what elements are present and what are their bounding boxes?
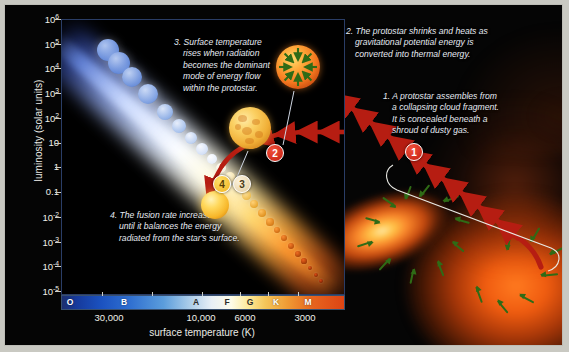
contraction-arrows xyxy=(276,45,320,89)
convection-cell xyxy=(235,124,241,130)
y-tick-mark xyxy=(55,93,61,94)
y-tick-mark xyxy=(55,44,61,45)
convection-cell xyxy=(255,131,263,138)
spectral-class-K: K xyxy=(273,296,279,309)
stage-badge-2[interactable]: 2 xyxy=(266,144,284,162)
x-notch xyxy=(298,292,299,296)
annotation-1-text: 1. A protostar assembles from a collapsi… xyxy=(383,91,533,137)
x-axis-label: surface temperature (K) xyxy=(61,327,343,338)
y-tick-mark xyxy=(55,192,61,193)
x-notch xyxy=(240,292,241,296)
spectral-class-B: B xyxy=(121,296,127,309)
spectral-class-O: O xyxy=(67,296,74,309)
y-tick-mark xyxy=(55,217,61,218)
annotation-2-text: 2. The protostar shrinks and heats as gr… xyxy=(346,26,546,60)
spectral-class-G: G xyxy=(247,296,254,309)
spectral-class-bar: O B A F G K M xyxy=(61,295,345,310)
x-notch xyxy=(102,292,103,296)
contracting-protostar-orb xyxy=(276,45,320,89)
stage-badge-4[interactable]: 4 xyxy=(213,175,231,193)
y-tick-mark xyxy=(55,143,61,144)
main-sequence-star-orb xyxy=(201,191,229,219)
convection-cell xyxy=(252,119,260,125)
convective-protostar-orb xyxy=(229,107,271,149)
spectral-class-M: M xyxy=(304,296,311,309)
x-notch xyxy=(202,292,203,296)
hr-diagram-figure: 3. Surface temperature rises when radiat… xyxy=(0,0,569,352)
y-tick-mark xyxy=(55,68,61,69)
stage-badge-3[interactable]: 3 xyxy=(233,175,251,193)
x-tick-10000: 10,000 xyxy=(186,312,215,323)
convection-cell xyxy=(245,138,254,144)
y-tick-mark xyxy=(55,242,61,243)
y-tick-mark xyxy=(55,291,61,292)
x-notch xyxy=(268,292,269,296)
spectral-class-F: F xyxy=(224,296,229,309)
figure-plate: 3. Surface temperature rises when radiat… xyxy=(4,4,563,346)
stage-badge-1[interactable]: 1 xyxy=(405,143,423,161)
x-tick-30000: 30,000 xyxy=(94,312,123,323)
y-axis-label: luminosity (solar units) xyxy=(33,6,44,256)
x-tick-3000: 3000 xyxy=(294,312,315,323)
convection-cell xyxy=(242,127,252,135)
y-tick-mark xyxy=(55,19,61,20)
spectral-class-A: A xyxy=(193,296,199,309)
convection-cell xyxy=(238,115,247,122)
y-tick-mark xyxy=(55,167,61,168)
x-notch xyxy=(152,292,153,296)
y-tick-mark xyxy=(55,118,61,119)
x-tick-6000: 6000 xyxy=(234,312,255,323)
y-tick-mark xyxy=(55,266,61,267)
annotation-4-text: 4. The fusion rate increases until it ba… xyxy=(110,210,260,244)
